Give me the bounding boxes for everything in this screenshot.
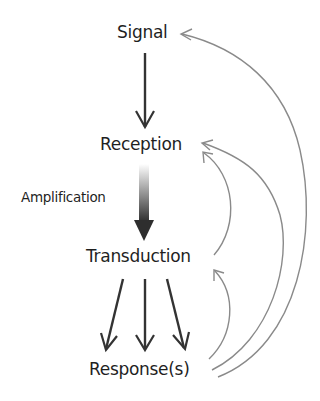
feedback-transduction-to-reception	[203, 152, 231, 255]
node-transduction: Transduction	[86, 248, 191, 265]
arrows-transduction-to-response	[101, 279, 189, 350]
amplification-label: Amplification	[21, 191, 106, 205]
node-signal: Signal	[117, 24, 167, 41]
node-response: Response(s)	[89, 361, 189, 378]
feedback-response-to-transduction	[209, 270, 230, 359]
amplification-arrow	[134, 164, 154, 241]
node-reception: Reception	[100, 136, 182, 153]
signaling-diagram: Signal Reception Transduction Response(s…	[0, 0, 320, 401]
arrow-signal-to-reception	[136, 53, 154, 127]
feedback-response-to-signal	[181, 29, 306, 377]
